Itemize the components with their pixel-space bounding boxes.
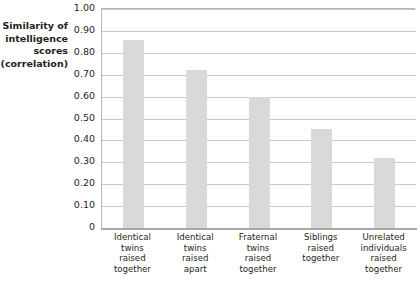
x-axis-category-label-line: Identical [100,232,164,243]
y-axis-tick-label: 0.70 [61,69,95,79]
y-axis-title: Similarity of intelligence scores (corre… [0,20,68,70]
y-axis-tick-label: 0.50 [61,113,95,123]
x-axis-category-label-line: raised [163,253,227,264]
y-axis-tick-label: 0.20 [61,178,95,188]
x-axis-category-label-line: Fraternal [226,232,290,243]
x-axis-category-label-line: together [352,264,416,275]
y-axis-tick-label: 0 [61,222,95,232]
y-axis-tick-label: 0.30 [61,156,95,166]
x-axis-category-label-line: twins [163,243,227,254]
y-axis-title-line-3: scores [0,45,68,58]
y-axis-tick-label: 0.90 [61,25,95,35]
x-axis-category-label-line: together [226,264,290,275]
bar [311,129,332,228]
y-axis-tick-label: 0.40 [61,134,95,144]
x-axis-category-label-line: twins [226,243,290,254]
x-axis-category-label-line: raised [289,243,353,254]
bar [374,158,395,228]
bar [249,97,270,228]
bars-layer [102,9,416,228]
y-axis-tick-label: 0.80 [61,47,95,57]
x-axis-category-label: Fraternaltwinsraisedtogether [226,232,290,274]
y-axis-title-line-2: intelligence [0,33,68,46]
y-axis-title-line-4: (correlation) [0,58,68,71]
x-axis-line [101,228,417,230]
x-axis-category-label: Unrelatedindividualsraisedtogether [352,232,416,274]
x-axis-category-label-line: apart [163,264,227,275]
x-axis-category-label-line: together [289,253,353,264]
x-axis-category-label-line: Siblings [289,232,353,243]
y-axis-tick-label: 0.10 [61,200,95,210]
bar [123,40,144,228]
y-axis-title-line-1: Similarity of [0,20,68,33]
x-axis-category-label-line: individuals [352,243,416,254]
x-axis-category-label: Identicaltwinsraisedtogether [100,232,164,274]
y-axis-tick-label: 1.00 [61,3,95,13]
x-axis-category-label-line: raised [226,253,290,264]
plot-area [101,8,415,228]
x-axis-category-label-line: together [100,264,164,275]
y-axis-tick-label: 0.60 [61,91,95,101]
x-axis-category-label: Siblingsraisedtogether [289,232,353,264]
x-axis-category-labels: IdenticaltwinsraisedtogetherIdenticaltwi… [101,232,415,286]
x-axis-category-label-line: raised [100,253,164,264]
x-axis-category-label-line: raised [352,253,416,264]
x-axis-category-label: Identicaltwinsraisedapart [163,232,227,274]
x-axis-category-label-line: Unrelated [352,232,416,243]
bar [186,70,207,228]
bar-chart: Similarity of intelligence scores (corre… [0,0,420,286]
x-axis-category-label-line: twins [100,243,164,254]
x-axis-category-label-line: Identical [163,232,227,243]
